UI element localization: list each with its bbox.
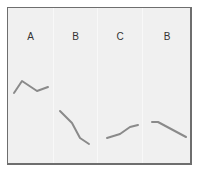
line-series-a [14,81,48,93]
line-series-b-2 [152,122,186,137]
line-series-b [60,111,89,144]
line-series-c [107,125,138,138]
line-series-layer [0,0,199,173]
